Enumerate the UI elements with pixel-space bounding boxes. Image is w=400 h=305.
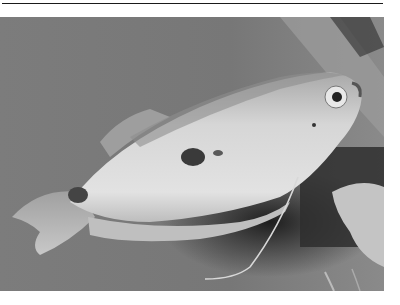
eye-pupil [332,92,342,102]
tail-spot [68,187,88,203]
fish-photo [0,17,384,291]
top-rule [2,3,383,4]
body-spot [181,148,205,166]
gill-mark [312,123,316,127]
fish-illustration [0,17,384,291]
body-spot-small [213,150,223,156]
